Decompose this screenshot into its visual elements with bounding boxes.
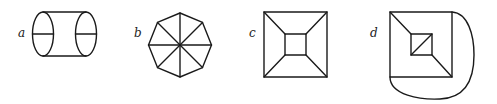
figure-a: a — [18, 12, 97, 56]
connector — [306, 12, 327, 34]
inner-diagonal — [411, 34, 432, 55]
connector — [264, 55, 285, 77]
connector — [390, 12, 411, 34]
figure-a-label: a — [18, 26, 25, 40]
figure-d-label: d — [370, 26, 378, 40]
graph-figures: a b c d — [0, 0, 497, 104]
figure-d: d — [370, 12, 474, 99]
inner-square — [285, 34, 306, 55]
connector — [306, 55, 327, 77]
figure-b: b — [134, 13, 212, 77]
figure-b-label: b — [134, 26, 142, 40]
figure-c-label: c — [249, 26, 256, 40]
connector — [432, 55, 452, 77]
figure-c: c — [249, 12, 327, 77]
connector — [264, 12, 285, 34]
